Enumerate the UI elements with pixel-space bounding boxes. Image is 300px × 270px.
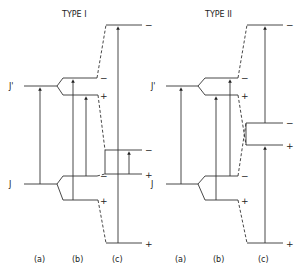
sign: − bbox=[100, 171, 108, 181]
sign: + bbox=[286, 141, 294, 151]
energy-level-diagram: TYPE I TYPE II J' J J' J − + − + − − + +… bbox=[0, 0, 300, 270]
sign: + bbox=[100, 91, 108, 101]
lower-level-label-1: J bbox=[8, 180, 11, 189]
sign: + bbox=[100, 196, 108, 206]
lower-level-label-2: J bbox=[150, 180, 153, 189]
col-b-label-2: (b) bbox=[213, 255, 224, 264]
sign: − bbox=[145, 145, 153, 155]
col-b-label-1: (b) bbox=[72, 255, 83, 264]
sign: − bbox=[286, 20, 294, 30]
type2-diagram bbox=[166, 25, 283, 243]
upper-level-label-1: J' bbox=[8, 82, 14, 91]
col-c-label-2: (c) bbox=[258, 255, 269, 264]
sign: + bbox=[145, 239, 153, 249]
type2-title: TYPE II bbox=[204, 10, 232, 19]
sign: + bbox=[241, 196, 249, 206]
sign: − bbox=[145, 20, 153, 30]
upper-level-label-2: J' bbox=[150, 82, 156, 91]
col-a-label-2: (a) bbox=[175, 255, 186, 264]
sign: + bbox=[286, 239, 294, 249]
type1-diagram bbox=[24, 25, 142, 243]
sign: + bbox=[241, 91, 249, 101]
sign: − bbox=[241, 171, 249, 181]
col-a-label-1: (a) bbox=[34, 255, 45, 264]
sign: − bbox=[286, 118, 294, 128]
sign: − bbox=[100, 73, 108, 83]
sign: − bbox=[241, 73, 249, 83]
type1-title: TYPE I bbox=[61, 10, 87, 19]
col-c-label-1: (c) bbox=[112, 255, 123, 264]
sign: + bbox=[145, 170, 153, 180]
